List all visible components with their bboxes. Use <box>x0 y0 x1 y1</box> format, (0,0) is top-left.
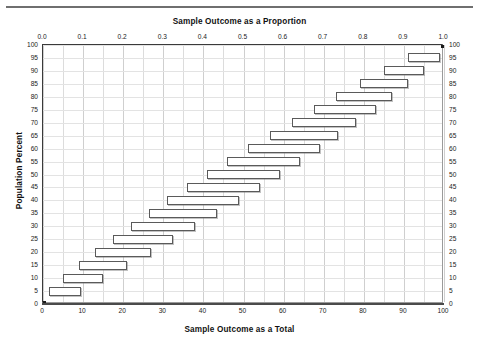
tick-label-left: 90 <box>16 66 38 73</box>
gridline-horizontal <box>43 213 442 214</box>
tick-label-top: 0.1 <box>78 33 87 40</box>
tick-label-right: 55 <box>449 157 471 164</box>
tick-label-left: 5 <box>16 287 38 294</box>
chart-container: Sample Outcome as a Proportion Sample Ou… <box>0 0 479 343</box>
tick-label-right: 70 <box>449 118 471 125</box>
ci-bar <box>336 92 392 101</box>
gridline-horizontal <box>43 200 442 201</box>
gridline-horizontal <box>43 123 442 124</box>
tick-label-left: 15 <box>16 261 38 268</box>
ci-bar <box>149 209 217 218</box>
tick-label-right: 10 <box>449 274 471 281</box>
tick-label-right: 0 <box>449 300 471 307</box>
gridline-horizontal <box>43 110 442 111</box>
ci-bar <box>79 261 127 270</box>
ci-bar <box>314 105 376 114</box>
tick-label-right: 25 <box>449 235 471 242</box>
tick-label-right: 35 <box>449 209 471 216</box>
tick-label-left: 20 <box>16 248 38 255</box>
bottom-axis-title: Sample Outcome as a Total <box>0 325 479 334</box>
ci-bar <box>384 66 424 75</box>
tick-label-top: 0.7 <box>318 33 327 40</box>
tick-label-left: 45 <box>16 183 38 190</box>
tick-label-left: 70 <box>16 118 38 125</box>
ci-bar <box>49 287 81 296</box>
ci-bar <box>360 79 408 88</box>
tick-label-right: 65 <box>449 131 471 138</box>
tick-label-bottom: 60 <box>279 307 286 314</box>
ci-bar <box>292 118 356 127</box>
ci-bar <box>187 183 259 192</box>
tick-label-right: 40 <box>449 196 471 203</box>
tick-label-bottom: 30 <box>159 307 166 314</box>
tick-label-right: 30 <box>449 222 471 229</box>
tick-label-top: 0.0 <box>37 33 46 40</box>
tick-label-right: 15 <box>449 261 471 268</box>
tick-label-right: 95 <box>449 53 471 60</box>
tick-label-right: 50 <box>449 170 471 177</box>
tick-label-bottom: 10 <box>78 307 85 314</box>
tick-label-left: 35 <box>16 209 38 216</box>
tick-label-bottom: 20 <box>119 307 126 314</box>
bottom-axis-line <box>42 303 444 305</box>
tick-label-right: 90 <box>449 66 471 73</box>
tick-label-left: 10 <box>16 274 38 281</box>
ci-bar <box>408 53 440 62</box>
tick-label-left: 55 <box>16 157 38 164</box>
tick-label-bottom: 0 <box>40 307 44 314</box>
gridline-horizontal <box>43 58 442 59</box>
tick-label-right: 45 <box>449 183 471 190</box>
tick-label-right: 100 <box>449 41 471 48</box>
tick-label-right: 20 <box>449 248 471 255</box>
gridline-horizontal <box>43 71 442 72</box>
tick-label-right: 85 <box>449 79 471 86</box>
tick-label-right: 60 <box>449 144 471 151</box>
tick-label-top: 0.3 <box>158 33 167 40</box>
ci-bar <box>131 222 195 231</box>
gridline-horizontal <box>43 45 442 46</box>
tick-label-bottom: 80 <box>359 307 366 314</box>
tick-label-right: 5 <box>449 287 471 294</box>
tick-label-left: 50 <box>16 170 38 177</box>
ci-bar <box>113 235 173 244</box>
tick-label-left: 0 <box>16 300 38 307</box>
tick-label-left: 40 <box>16 196 38 203</box>
corner-marker-top-right <box>441 45 444 48</box>
tick-label-left: 60 <box>16 144 38 151</box>
gridline-horizontal <box>43 226 442 227</box>
tick-label-top: 1.0 <box>438 33 447 40</box>
tick-label-left: 25 <box>16 235 38 242</box>
ci-bar <box>270 131 338 140</box>
tick-label-left: 75 <box>16 105 38 112</box>
tick-label-right: 75 <box>449 105 471 112</box>
ci-bar <box>63 274 103 283</box>
tick-label-top: 0.4 <box>198 33 207 40</box>
tick-label-left: 30 <box>16 222 38 229</box>
ci-bar <box>248 144 320 153</box>
gridline-horizontal <box>43 291 442 292</box>
ci-bar <box>207 170 279 179</box>
plot-area <box>42 44 443 303</box>
tick-label-top: 0.2 <box>118 33 127 40</box>
tick-label-right: 80 <box>449 92 471 99</box>
tick-label-top: 0.5 <box>238 33 247 40</box>
tick-label-top: 0.6 <box>278 33 287 40</box>
gridline-horizontal <box>43 136 442 137</box>
gridline-horizontal <box>43 149 442 150</box>
tick-label-left: 85 <box>16 79 38 86</box>
tick-label-left: 80 <box>16 92 38 99</box>
ci-bar <box>227 157 299 166</box>
gridline-horizontal <box>43 239 442 240</box>
tick-label-bottom: 50 <box>239 307 246 314</box>
ci-bar <box>95 248 151 257</box>
tick-label-left: 65 <box>16 131 38 138</box>
tick-label-bottom: 70 <box>319 307 326 314</box>
tick-label-bottom: 90 <box>399 307 406 314</box>
top-axis-title: Sample Outcome as a Proportion <box>0 17 479 26</box>
tick-label-top: 0.9 <box>398 33 407 40</box>
gridline-vertical <box>444 45 445 302</box>
tick-label-bottom: 100 <box>437 307 448 314</box>
tick-label-bottom: 40 <box>199 307 206 314</box>
ci-bar <box>167 196 239 205</box>
tick-label-top: 0.8 <box>358 33 367 40</box>
